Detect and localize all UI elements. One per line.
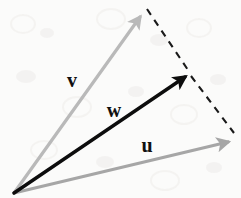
vector-diagram-figure: v w u xyxy=(0,0,241,198)
vector-diagram-canvas: v w u xyxy=(0,0,241,198)
label-vector-v: v xyxy=(67,69,77,91)
vector-labels-group: v w u xyxy=(67,69,153,156)
vector-w-line xyxy=(14,77,185,193)
dashed-line-corner-to-u xyxy=(191,76,234,133)
label-vector-w: w xyxy=(107,99,122,121)
dashed-line-v-to-corner xyxy=(147,9,190,73)
dashed-parallelogram-group xyxy=(147,9,234,133)
label-vector-u: u xyxy=(141,134,152,156)
